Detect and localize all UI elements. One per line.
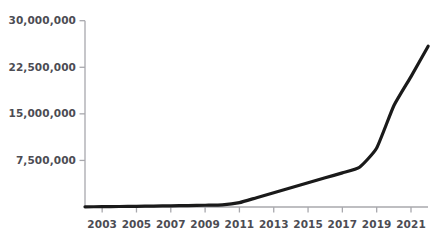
x-axis-tick-label: 2007: [156, 218, 186, 230]
chart-canvas: 7,500,00015,000,00022,500,00030,000,000 …: [0, 0, 441, 242]
y-axis-tick-label: 30,000,000: [9, 14, 76, 26]
x-axis-tick-label: 2009: [190, 218, 220, 230]
x-axis-tick-label: 2015: [293, 218, 323, 230]
y-axis-tick-label: 7,500,000: [16, 154, 76, 166]
data-series-line: [85, 46, 428, 207]
x-axis-tick-label: 2019: [362, 218, 392, 230]
series-line-path: [85, 46, 428, 207]
x-axis-tick-labels: 2003200520072009201120132015201720192021: [87, 218, 425, 230]
line-chart: 7,500,00015,000,00022,500,00030,000,000 …: [0, 0, 441, 242]
x-axis-tick-label: 2003: [87, 218, 117, 230]
y-axis: [80, 21, 86, 207]
y-axis-tick-labels: 7,500,00015,000,00022,500,00030,000,000: [9, 14, 76, 166]
x-axis-tick-label: 2005: [122, 218, 152, 230]
y-axis-tick-label: 15,000,000: [9, 107, 76, 119]
x-axis-tick-label: 2013: [259, 218, 289, 230]
y-axis-tick-label: 22,500,000: [9, 61, 76, 73]
x-axis-tick-label: 2011: [225, 218, 255, 230]
x-axis-tick-label: 2017: [328, 218, 358, 230]
x-axis-tick-label: 2021: [396, 218, 426, 230]
